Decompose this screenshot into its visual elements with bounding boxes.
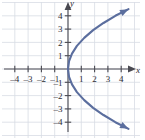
graph-figure: –4–3–2–112344321–1–2–3–4 x y (0, 0, 145, 140)
y-tick-label: 2 (58, 38, 63, 48)
grid-lines (2, 2, 140, 138)
x-tick-label: 3 (106, 74, 111, 84)
x-tick-label: –3 (23, 74, 34, 84)
y-axis-label: y (69, 0, 74, 8)
x-tick-label: 2 (92, 74, 97, 84)
x-tick-label: 4 (119, 74, 124, 84)
axes (4, 2, 136, 132)
x-tick-label: 1 (79, 74, 84, 84)
curve-arrowhead-upper-right (119, 9, 128, 16)
y-tick-label: –1 (53, 78, 63, 88)
coordinate-plane-svg: –4–3–2–112344321–1–2–3–4 x y (0, 0, 145, 140)
y-tick-label: 4 (58, 11, 63, 21)
y-tick-label: –3 (53, 104, 64, 114)
x-axis-label: x (135, 65, 140, 75)
y-tick-label: 1 (58, 51, 63, 61)
curve-arrowhead-lower-right (119, 122, 128, 129)
x-tick-label: –2 (36, 74, 46, 84)
x-tick-label: –4 (9, 74, 20, 84)
grid-vertical-lines (15, 2, 135, 138)
y-tick-label: –2 (53, 91, 63, 101)
y-tick-label: 3 (58, 24, 63, 34)
y-tick-label: –4 (53, 117, 64, 127)
